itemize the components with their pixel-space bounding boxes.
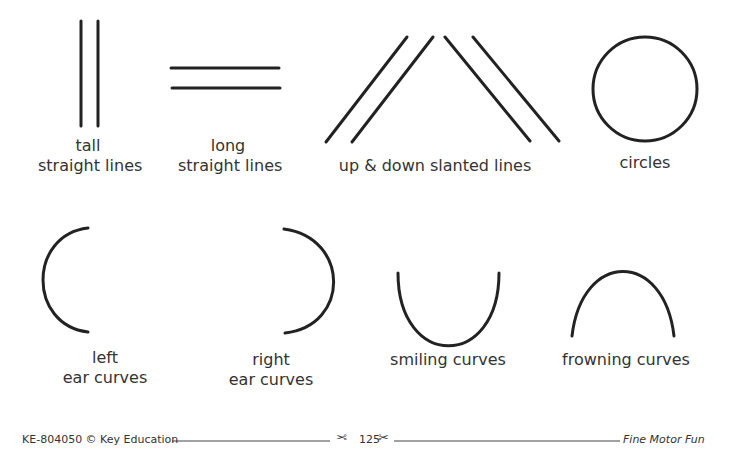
label-line-2: straight lines xyxy=(38,156,138,176)
label-line-1: long xyxy=(178,136,278,156)
label-long-straight-lines: long straight lines xyxy=(178,136,278,176)
worksheet-drawing xyxy=(0,0,732,457)
label-right-ear-curves: right ear curves xyxy=(221,350,321,390)
label-left-ear-curves: left ear curves xyxy=(55,348,155,388)
label-line-2: ear curves xyxy=(55,368,155,388)
label-slanted-lines: up & down slanted lines xyxy=(330,156,540,176)
right-ear-curve-shape xyxy=(284,229,334,333)
footer-copyright: KE-804050 © Key Education xyxy=(22,433,178,446)
label-tall-straight-lines: tall straight lines xyxy=(38,136,138,176)
left-ear-curve-shape xyxy=(43,228,88,332)
page-number: 125 xyxy=(359,433,380,446)
frowning-curve-shape xyxy=(572,272,674,337)
smiling-curve-shape xyxy=(398,273,499,346)
label-line-1: smiling curves xyxy=(383,350,513,370)
label-line-1: up & down slanted lines xyxy=(330,156,540,176)
scissors-icon: ✂ xyxy=(378,430,389,446)
label-smiling-curves: smiling curves xyxy=(383,350,513,370)
label-line-2: straight lines xyxy=(178,156,278,176)
footer-book-title: Fine Motor Fun xyxy=(623,433,705,446)
label-line-1: left xyxy=(55,348,155,368)
label-circles: circles xyxy=(605,153,685,173)
label-line-1: tall xyxy=(38,136,138,156)
label-line-1: right xyxy=(221,350,321,370)
label-line-1: circles xyxy=(605,153,685,173)
circle-shape xyxy=(593,37,697,141)
slanted-lines-shape xyxy=(326,37,559,142)
label-line-1: frowning curves xyxy=(556,350,696,370)
long-straight-lines-shape xyxy=(171,68,280,88)
label-frowning-curves: frowning curves xyxy=(556,350,696,370)
tall-straight-lines-shape xyxy=(81,21,98,126)
label-line-2: ear curves xyxy=(221,370,321,390)
scissors-icon: ✂ xyxy=(336,430,347,446)
